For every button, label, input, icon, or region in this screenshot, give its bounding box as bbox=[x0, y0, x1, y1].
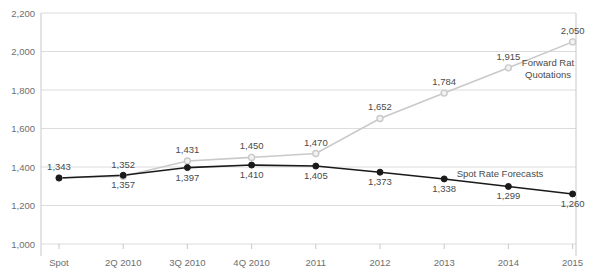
line-chart: 1,0001,2001,4001,6001,8002,0002,200Spot2… bbox=[0, 0, 592, 276]
data-point-label: 1,470 bbox=[304, 137, 328, 148]
chart-canvas: 1,0001,2001,4001,6001,8002,0002,200Spot2… bbox=[0, 0, 592, 276]
data-point-label: 1,652 bbox=[368, 101, 392, 112]
data-point-label: 1,260 bbox=[561, 198, 585, 209]
data-point-label: 1,352 bbox=[111, 159, 135, 170]
x-axis-tick-label: 2014 bbox=[498, 257, 519, 268]
x-axis-tick-label: 2011 bbox=[306, 257, 326, 268]
y-axis-tick-label: 2,000 bbox=[11, 46, 35, 57]
x-axis-tick-label: Spot bbox=[49, 257, 69, 268]
data-point-marker bbox=[441, 176, 447, 182]
x-axis-tick-label: 3Q 2010 bbox=[169, 257, 205, 268]
series-annotation-label: Spot Rate Forecasts bbox=[457, 168, 544, 179]
data-point-marker bbox=[441, 90, 447, 96]
x-axis-tick-label: 2015 bbox=[562, 257, 583, 268]
y-axis-tick-label: 1,000 bbox=[11, 239, 35, 250]
series-annotation-label: Forward Rat bbox=[522, 57, 575, 68]
data-point-marker bbox=[313, 163, 319, 169]
data-point-label: 1,299 bbox=[497, 190, 521, 201]
y-axis-tick-label: 1,400 bbox=[11, 162, 35, 173]
data-point-label: 2,050 bbox=[561, 25, 585, 36]
series-annotation-label: Quotations bbox=[525, 69, 571, 80]
data-point-label: 1,450 bbox=[240, 140, 264, 151]
data-point-marker bbox=[249, 154, 255, 160]
data-point-label: 1,338 bbox=[432, 183, 456, 194]
x-axis-tick-label: 4Q 2010 bbox=[233, 257, 269, 268]
data-point-marker bbox=[377, 115, 383, 121]
y-axis-tick-label: 1,200 bbox=[11, 200, 35, 211]
data-point-label: 1,357 bbox=[111, 179, 135, 190]
data-point-marker bbox=[184, 158, 190, 164]
data-point-marker bbox=[377, 169, 383, 175]
x-axis-tick-label: 2012 bbox=[369, 257, 390, 268]
data-point-marker bbox=[184, 165, 190, 171]
x-axis-tick-label: 2Q 2010 bbox=[105, 257, 141, 268]
y-axis-tick-label: 1,600 bbox=[11, 123, 35, 134]
data-point-label: 1,431 bbox=[176, 144, 200, 155]
data-point-marker bbox=[570, 191, 576, 197]
data-point-label: 1,405 bbox=[304, 170, 328, 181]
series-line bbox=[59, 42, 573, 178]
x-axis-tick-label: 2013 bbox=[434, 257, 455, 268]
data-point-marker bbox=[56, 175, 62, 181]
data-point-label: 1,915 bbox=[497, 51, 521, 62]
data-point-label: 1,784 bbox=[432, 76, 456, 87]
y-axis-tick-label: 1,800 bbox=[11, 85, 35, 96]
data-point-label: 1,397 bbox=[176, 172, 200, 183]
data-point-label: 1,373 bbox=[368, 176, 392, 187]
data-point-label: 1,410 bbox=[240, 169, 264, 180]
data-point-marker bbox=[505, 183, 511, 189]
y-axis-tick-label: 2,200 bbox=[11, 8, 35, 19]
data-point-marker bbox=[249, 162, 255, 168]
data-point-marker bbox=[505, 65, 511, 71]
data-point-marker bbox=[570, 39, 576, 45]
data-point-label: 1,343 bbox=[47, 161, 71, 172]
data-point-marker bbox=[313, 151, 319, 157]
data-point-marker bbox=[120, 172, 126, 178]
